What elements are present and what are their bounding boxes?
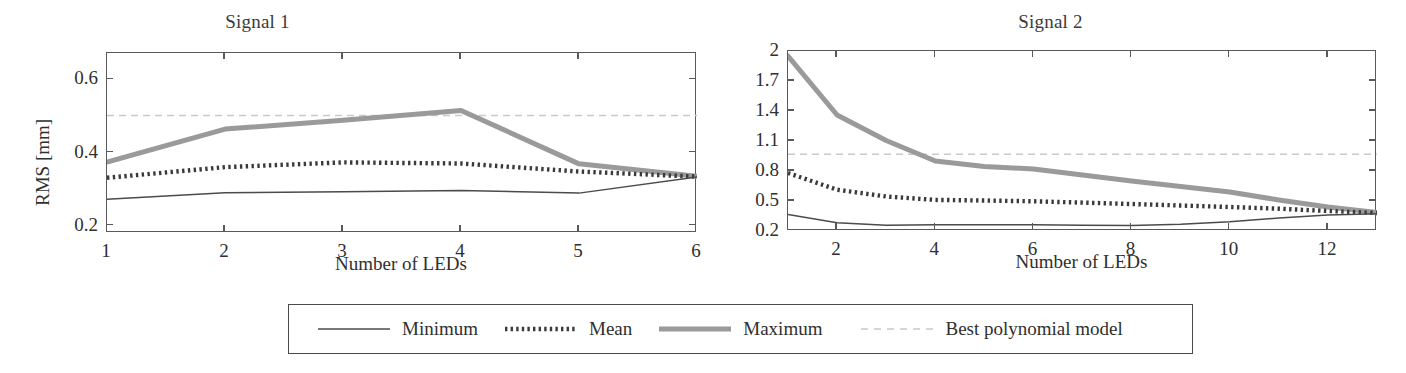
y-tick-signal-1-0 — [106, 224, 113, 225]
x-tick-top-signal-1-3 — [459, 52, 460, 59]
legend-items: MinimumMeanMaximumBest polynomial model — [289, 305, 1192, 353]
chart-panel-signal-1: Signal 1 0.20.40.6 123456 RMS [mm] Numbe… — [0, 0, 703, 290]
plot-area-signal-1 — [106, 52, 696, 232]
y-tick-signal-2-1 — [787, 199, 794, 200]
x-tick-top-signal-1-4 — [577, 52, 578, 59]
x-tick-signal-1-1 — [223, 225, 224, 232]
y-tick-label: 0.2 — [40, 215, 98, 234]
x-tick-top-signal-2-1 — [934, 50, 935, 57]
y-tick-right-signal-2-2 — [1369, 169, 1376, 170]
y-tick-label: 2 — [721, 40, 779, 59]
legend-item-best-polynomial-model[interactable]: Best polynomial model — [860, 318, 1122, 340]
y-tick-label: 1.4 — [721, 100, 779, 119]
x-tick-signal-1-3 — [459, 225, 460, 232]
x-tick-signal-2-0 — [835, 223, 836, 230]
legend-label: Mean — [589, 318, 632, 340]
y-tick-right-signal-1-1 — [689, 151, 696, 152]
chart-title-signal-1: Signal 1 — [0, 11, 609, 33]
legend-item-mean[interactable]: Mean — [504, 318, 632, 340]
legend-swatch-solid-thin — [317, 322, 391, 336]
x-tick-top-signal-1-2 — [341, 52, 342, 59]
x-tick-top-signal-2-4 — [1228, 50, 1229, 57]
y-tick-right-signal-2-5 — [1369, 79, 1376, 80]
series-line-maximum — [107, 110, 697, 176]
x-tick-top-signal-2-0 — [835, 50, 836, 57]
legend-item-minimum[interactable]: Minimum — [317, 318, 478, 340]
y-tick-signal-2-4 — [787, 109, 794, 110]
y-tick-label: 0.8 — [721, 160, 779, 179]
y-tick-signal-1-2 — [106, 78, 113, 79]
legend-swatch-dashed-thin — [860, 322, 934, 336]
x-tick-signal-1-4 — [577, 225, 578, 232]
x-tick-signal-2-1 — [934, 223, 935, 230]
y-axis-title-signal-1: RMS [mm] — [32, 119, 54, 206]
series-line-maximum — [788, 56, 1377, 213]
y-tick-label: 1.1 — [721, 130, 779, 149]
chart-panel-signal-2: Signal 2 0.20.50.81.11.41.72 24681012 Nu… — [703, 0, 1406, 290]
y-tick-signal-2-5 — [787, 79, 794, 80]
y-tick-signal-1-1 — [106, 151, 113, 152]
y-tick-label: 0.6 — [40, 68, 98, 87]
y-tick-right-signal-2-3 — [1369, 139, 1376, 140]
x-tick-signal-2-4 — [1228, 223, 1229, 230]
legend-label: Maximum — [743, 318, 822, 340]
series-line-mean — [788, 173, 1377, 213]
y-tick-signal-2-2 — [787, 169, 794, 170]
y-tick-signal-2-3 — [787, 139, 794, 140]
y-tick-label: 0.5 — [721, 190, 779, 209]
legend: MinimumMeanMaximumBest polynomial model — [288, 304, 1193, 354]
legend-swatch-solid-thick — [658, 322, 732, 336]
y-tick-label: 1.7 — [721, 70, 779, 89]
y-tick-right-signal-2-1 — [1369, 199, 1376, 200]
x-tick-signal-1-2 — [341, 225, 342, 232]
x-axis-title-signal-1: Number of LEDs — [106, 253, 696, 275]
x-tick-top-signal-2-5 — [1326, 50, 1327, 57]
legend-item-maximum[interactable]: Maximum — [658, 318, 822, 340]
y-tick-right-signal-1-0 — [689, 224, 696, 225]
series-line-minimum — [107, 177, 697, 199]
x-tick-signal-2-5 — [1326, 223, 1327, 230]
chart-title-signal-2: Signal 2 — [699, 11, 1402, 33]
series-line-minimum — [788, 214, 1377, 226]
legend-swatch-dotted-thick — [504, 322, 578, 336]
legend-label: Minimum — [402, 318, 478, 340]
y-tick-right-signal-2-4 — [1369, 109, 1376, 110]
x-tick-top-signal-2-3 — [1130, 50, 1131, 57]
x-axis-title-signal-2: Number of LEDs — [787, 251, 1376, 273]
x-tick-top-signal-1-1 — [223, 52, 224, 59]
y-tick-right-signal-1-2 — [689, 78, 696, 79]
y-tick-label: 0.2 — [721, 220, 779, 239]
x-tick-signal-2-3 — [1130, 223, 1131, 230]
x-tick-signal-2-2 — [1032, 223, 1033, 230]
plot-area-signal-2 — [787, 50, 1376, 230]
figure-root: Signal 1 0.20.40.6 123456 RMS [mm] Numbe… — [0, 0, 1406, 373]
plot-canvas-signal-2 — [788, 51, 1377, 231]
legend-label: Best polynomial model — [945, 318, 1122, 340]
x-tick-top-signal-2-2 — [1032, 50, 1033, 57]
plot-canvas-signal-1 — [107, 53, 697, 233]
